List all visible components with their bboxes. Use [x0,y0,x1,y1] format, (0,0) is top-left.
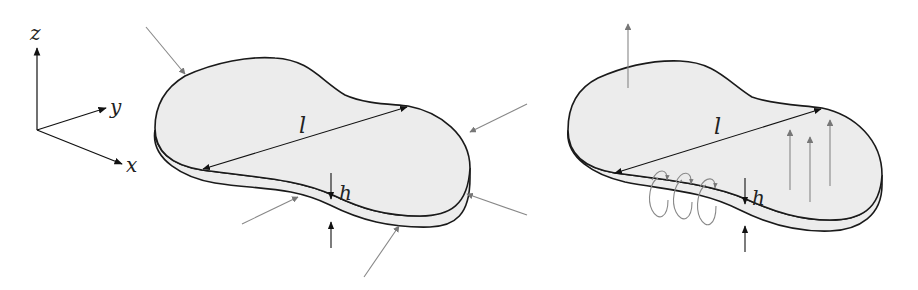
load-arrow-icon [242,197,298,224]
y-axis-label: y [109,95,122,119]
diagram-svg: z y x l h l h [0,0,918,290]
right-length-label: l [714,114,721,139]
load-arrow-icon [364,226,399,277]
x-axis [37,130,122,164]
z-axis-label: z [29,21,41,45]
load-arrow-icon [467,194,527,215]
load-arrow-icon [470,104,527,132]
left-length-label: l [299,113,306,138]
left-thickness-label: h [339,181,352,205]
diagram-canvas: z y x l h l h [0,0,918,290]
left-plate: l h [146,27,527,277]
x-axis-label: x [126,153,137,177]
right-thickness-label: h [752,186,765,210]
right-plate: l h [568,24,882,252]
load-arrow-icon [146,27,185,74]
coordinate-axes: z y x [29,21,137,177]
y-axis [37,108,106,130]
